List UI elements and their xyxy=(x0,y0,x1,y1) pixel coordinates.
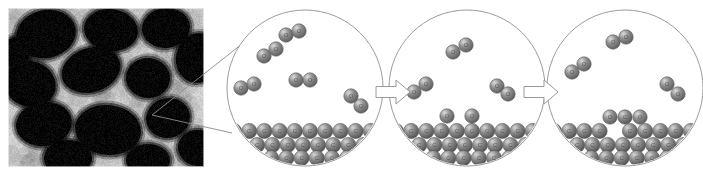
atom-label: C xyxy=(254,155,259,161)
atom-label: C xyxy=(500,128,505,134)
atom-label: O xyxy=(451,49,456,55)
atom-label: C xyxy=(597,128,602,134)
carbon-substrate: CCCCCCCCCCCCCCCCCCCCCCCCCC xyxy=(388,123,540,165)
atom-label: C xyxy=(345,155,350,161)
atom-label: C xyxy=(270,142,275,148)
atom-label: C xyxy=(673,128,678,134)
atom-label: C xyxy=(463,142,468,148)
substrate-carbon-atom: C xyxy=(287,123,302,138)
atom-label: C xyxy=(331,142,336,148)
substrate-carbon-atom: C xyxy=(510,123,525,138)
substrate-carbon-atom: C xyxy=(449,123,464,138)
atom-label: O xyxy=(239,85,244,91)
atom-label: C xyxy=(316,142,321,148)
substrate-carbon-atom: C xyxy=(434,123,449,138)
atom-label: C xyxy=(681,142,686,148)
substrate-carbon-atom: C xyxy=(614,150,629,165)
atom-label: C xyxy=(658,128,663,134)
figure-root: CCCCCCCCCCCCCCCCCCCCCCCCCCOOOOOOOOOOCCCC… xyxy=(0,0,703,189)
o2-approach-panel: CCCCCCCCCCCCCCCCCCCCCCCCCCOOOOOOOOOO xyxy=(226,10,383,166)
atom-label: C xyxy=(308,128,313,134)
substrate-carbon-atom: C xyxy=(318,123,333,138)
atom-label: C xyxy=(346,142,351,148)
substrate-carbon-atom: C xyxy=(653,123,668,138)
atom-label: C xyxy=(665,155,670,161)
atom-label: O xyxy=(570,69,575,75)
atom-label: O xyxy=(308,77,313,83)
substrate-carbon-atom: C xyxy=(592,123,607,138)
atom-label: C xyxy=(455,128,460,134)
co2-desorption-panel: CCCCCCCCCCCCCCCCCCCCCCCCCOOOOOOOCO xyxy=(546,10,703,166)
atom-label: C xyxy=(285,142,290,148)
atom-label: C xyxy=(621,142,626,148)
atom-label: C xyxy=(447,142,452,148)
oxygen-atom: O xyxy=(269,42,283,56)
substrate-carbon-atom: C xyxy=(456,150,471,165)
atom-label: C xyxy=(446,155,451,161)
atom-label: C xyxy=(628,128,633,134)
atom-label: C xyxy=(323,128,328,134)
oxygen-atom: O xyxy=(289,73,303,87)
adsorbed-oxygen-atom: O xyxy=(440,109,454,123)
atom-label: C xyxy=(293,128,298,134)
atom-label: O xyxy=(349,93,354,99)
atom-label: C xyxy=(651,142,656,148)
atom-label: C xyxy=(353,128,358,134)
o2-dissociation-panel: CCCCCCCCCCCCCCCCCCCCCCCCCCOOOOOOOO xyxy=(388,10,545,166)
atom-label: C xyxy=(560,142,565,148)
atom-label: C xyxy=(284,155,289,161)
carbon-atom: C xyxy=(618,110,632,124)
atom-label: O xyxy=(608,114,613,120)
atom-label: C xyxy=(478,142,483,148)
oxygen-atom: O xyxy=(577,57,591,71)
atom-label: C xyxy=(409,128,414,134)
oxygen-atom: O xyxy=(440,109,454,123)
atom-label: C xyxy=(299,155,304,161)
oxygen-atom: O xyxy=(354,99,368,113)
atom-label: C xyxy=(240,142,245,148)
oxygen-atom: O xyxy=(419,77,433,91)
substrate-carbon-atom: C xyxy=(294,150,309,165)
substrate-carbon-atom: C xyxy=(638,123,653,138)
oxygen-atom: O xyxy=(606,35,620,49)
substrate-carbon-atom: C xyxy=(668,123,683,138)
substrate-carbon-atom: C xyxy=(257,123,272,138)
atom-label: C xyxy=(277,128,282,134)
oxygen-atom: O xyxy=(660,77,674,91)
adsorbed-oxygen-atom: O xyxy=(465,109,479,123)
atom-label: O xyxy=(445,113,450,119)
atom-label: C xyxy=(623,114,628,120)
atom-label: C xyxy=(636,142,641,148)
substrate-carbon-atom: C xyxy=(302,123,317,138)
oxygen-atom: O xyxy=(671,87,685,101)
atom-label: C xyxy=(461,155,466,161)
atom-label: C xyxy=(523,142,528,148)
co2-molecule: OCO xyxy=(603,110,647,124)
atom-label: C xyxy=(394,128,399,134)
substrate-carbon-atom: C xyxy=(348,123,363,138)
atom-label: O xyxy=(611,39,616,45)
atom-label: O xyxy=(294,77,299,83)
atom-label: C xyxy=(605,142,610,148)
substrate-carbon-atom: C xyxy=(388,123,403,138)
atom-label: C xyxy=(643,128,648,134)
oxygen-atom: O xyxy=(501,87,515,101)
oxygen-atom: O xyxy=(619,30,633,44)
atom-label: C xyxy=(604,155,609,161)
atom-label: O xyxy=(464,42,469,48)
atom-label: O xyxy=(624,34,629,40)
atom-label: C xyxy=(301,142,306,148)
atom-label: C xyxy=(493,142,498,148)
atom-label: O xyxy=(284,32,289,38)
atom-label: C xyxy=(424,128,429,134)
substrate-carbon-atom: C xyxy=(495,123,510,138)
oxygen-atom: O xyxy=(465,109,479,123)
atom-label: C xyxy=(232,128,237,134)
oxygen-atom: O xyxy=(303,73,317,87)
atom-label: C xyxy=(515,128,520,134)
atom-label: C xyxy=(315,155,320,161)
atom-label: C xyxy=(567,128,572,134)
schematic-layer: CCCCCCCCCCCCCCCCCCCCCCCCCCOOOOOOOOOOCCCC… xyxy=(0,0,703,189)
atom-label: C xyxy=(477,155,482,161)
atom-label: C xyxy=(507,155,512,161)
